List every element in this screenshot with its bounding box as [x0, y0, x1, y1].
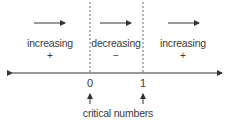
interval-label-3: increasing [160, 37, 206, 49]
critical-value-0: 0 [87, 77, 93, 89]
interval-label-2: decreasing [91, 37, 140, 49]
interval-sign-3: + [180, 50, 186, 61]
interval-sign-1: + [47, 50, 53, 61]
interval-sign-2: − [113, 50, 119, 61]
critical-value-1: 1 [140, 77, 146, 89]
caption: critical numbers [83, 107, 153, 119]
interval-label-1: increasing [27, 37, 73, 49]
